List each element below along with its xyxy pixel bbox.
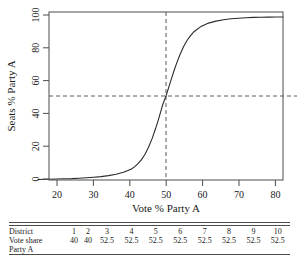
party-a-5 [144,245,168,254]
party-a-1 [67,245,81,254]
district-vote-share-table: District 1 2 3 4 5 6 7 8 9 10 Vote share… [9,227,290,254]
x-axis-ticks [57,180,275,186]
party-a-10 [266,245,290,254]
vote-share-3: 52.5 [95,236,119,245]
x-tick-label-70: 70 [234,189,244,200]
party-a-3 [95,245,119,254]
district-3: 3 [95,227,119,236]
party-a-7 [192,245,216,254]
y-tick-label-20: 20 [30,141,41,151]
vote-share-4: 52.5 [119,236,143,245]
row-label-vote-share: Vote share [9,236,67,245]
district-2: 2 [81,227,95,236]
vote-share-2: 40 [81,236,95,245]
table-row-party-a: Party A [9,245,290,254]
y-tick-label-60: 60 [30,76,41,86]
y-tick-label-40: 40 [30,108,41,118]
x-tick-label-50: 50 [161,189,171,200]
row-label-party-a: Party A [9,245,67,254]
vote-share-8: 52.5 [217,236,241,245]
vote-share-5: 52.5 [144,236,168,245]
vote-share-1: 40 [67,236,81,245]
party-a-4 [119,245,143,254]
chart-svg: 0 20 40 60 80 100 Seats % Party A 20 30 … [0,0,297,218]
y-tick-label-80: 80 [30,43,41,53]
district-5: 5 [144,227,168,236]
x-tick-label-20: 20 [52,189,62,200]
table-row-vote-share: Vote share 40 40 52.5 52.5 52.5 52.5 52.… [9,236,290,245]
district-9: 9 [241,227,265,236]
x-axis-title: Vote % Party A [132,202,200,214]
vote-share-7: 52.5 [192,236,216,245]
vote-share-9: 52.5 [241,236,265,245]
district-7: 7 [192,227,216,236]
x-tick-label-80: 80 [270,189,280,200]
seats-votes-figure: 0 20 40 60 80 100 Seats % Party A 20 30 … [0,0,297,218]
y-tick-label-100: 100 [30,8,41,23]
party-a-6 [168,245,192,254]
district-1: 1 [67,227,81,236]
y-axis-title: Seats % Party A [5,60,17,131]
x-tick-label-30: 30 [88,189,98,200]
district-table-container: District 1 2 3 4 5 6 7 8 9 10 Vote share… [9,222,290,256]
y-axis-ticks [43,15,49,179]
party-a-9 [241,245,265,254]
row-label-district: District [9,227,67,236]
table-row-district: District 1 2 3 4 5 6 7 8 9 10 [9,227,290,236]
table-rule-bottom [9,254,290,256]
vote-share-10: 52.5 [266,236,290,245]
vote-share-6: 52.5 [168,236,192,245]
district-4: 4 [119,227,143,236]
x-tick-label-60: 60 [198,189,208,200]
party-a-2 [81,245,95,254]
district-6: 6 [168,227,192,236]
y-tick-label-0: 0 [30,177,41,182]
x-tick-label-40: 40 [125,189,135,200]
district-8: 8 [217,227,241,236]
party-a-8 [217,245,241,254]
district-10: 10 [266,227,290,236]
